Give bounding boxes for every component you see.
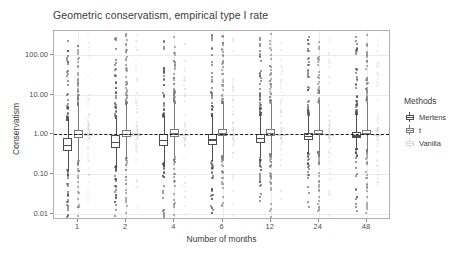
outlier-point bbox=[184, 67, 186, 69]
outlier-point bbox=[318, 184, 320, 186]
outlier-point bbox=[318, 155, 320, 157]
outlier-point bbox=[270, 203, 272, 205]
outlier-point bbox=[67, 63, 69, 65]
outlier-point bbox=[163, 41, 165, 43]
outlier-point bbox=[114, 215, 116, 217]
outlier-point bbox=[356, 154, 358, 156]
outlier-point bbox=[125, 64, 127, 66]
plot-panel bbox=[53, 30, 390, 219]
outlier-point bbox=[280, 159, 282, 161]
outlier-point bbox=[88, 174, 90, 176]
outlier-point bbox=[328, 59, 330, 61]
outlier-point bbox=[125, 100, 127, 102]
outlier-point bbox=[173, 160, 175, 162]
outlier-point bbox=[66, 57, 68, 59]
outlier-point bbox=[77, 58, 79, 60]
x-tick-label: 6 bbox=[219, 222, 223, 231]
outlier-point bbox=[211, 35, 213, 37]
outlier-point bbox=[87, 103, 89, 105]
outlier-point bbox=[136, 102, 138, 104]
outlier-point bbox=[115, 59, 117, 61]
outlier-point bbox=[259, 53, 261, 55]
outlier-point bbox=[377, 39, 379, 41]
outlier-point bbox=[232, 156, 234, 158]
outlier-point bbox=[125, 67, 127, 69]
outlier-point bbox=[136, 121, 138, 123]
outlier-point bbox=[136, 80, 138, 82]
outlier-point bbox=[77, 85, 79, 87]
outlier-point bbox=[135, 159, 137, 161]
outlier-point bbox=[67, 106, 69, 108]
whisker-upper bbox=[356, 114, 357, 132]
outlier-point bbox=[232, 78, 234, 80]
outlier-point bbox=[77, 177, 79, 179]
whisker-lower bbox=[137, 135, 138, 138]
outlier-point bbox=[211, 54, 213, 56]
outlier-point bbox=[184, 95, 186, 97]
outlier-point bbox=[308, 43, 310, 45]
whisker-lower bbox=[319, 135, 320, 152]
outlier-point bbox=[211, 39, 213, 41]
x-tick-mark bbox=[125, 219, 126, 222]
outlier-point bbox=[222, 85, 224, 87]
outlier-point bbox=[366, 34, 368, 36]
outlier-point bbox=[163, 68, 165, 70]
outlier-point bbox=[135, 68, 137, 70]
outlier-point bbox=[232, 87, 234, 89]
outlier-point bbox=[115, 197, 117, 199]
x-axis-label: Number of months bbox=[53, 234, 390, 244]
outlier-point bbox=[377, 126, 379, 128]
outlier-point bbox=[125, 176, 127, 178]
legend: Methods MertenstVanilla bbox=[404, 96, 446, 150]
whisker-lower bbox=[174, 137, 175, 157]
outlier-point bbox=[232, 106, 234, 108]
legend-item-t[interactable]: t bbox=[404, 124, 446, 136]
outlier-point bbox=[173, 92, 175, 94]
outlier-point bbox=[259, 88, 261, 90]
gridline-horizontal bbox=[54, 214, 389, 215]
outlier-point bbox=[280, 149, 282, 151]
legend-title: Methods bbox=[404, 96, 446, 106]
outlier-point bbox=[377, 78, 379, 80]
outlier-point bbox=[270, 161, 272, 163]
legend-item-mertens[interactable]: Mertens bbox=[404, 111, 446, 123]
outlier-point bbox=[280, 84, 282, 86]
outlier-point bbox=[270, 208, 272, 210]
outlier-point bbox=[163, 172, 165, 174]
x-tick-mark bbox=[270, 219, 271, 222]
outlier-point bbox=[210, 162, 212, 164]
outlier-point bbox=[115, 204, 117, 206]
outlier-point bbox=[87, 34, 89, 36]
outlier-point bbox=[222, 79, 224, 81]
legend-item-vanilla[interactable]: Vanilla bbox=[404, 137, 446, 149]
outlier-point bbox=[115, 87, 117, 89]
outlier-point bbox=[270, 187, 272, 189]
outlier-point bbox=[366, 153, 368, 155]
outlier-point bbox=[174, 180, 176, 182]
whisker-lower bbox=[89, 135, 90, 138]
outlier-point bbox=[115, 111, 117, 113]
outlier-point bbox=[329, 178, 331, 180]
outlier-point bbox=[115, 194, 117, 196]
outlier-point bbox=[222, 171, 224, 173]
whisker-upper bbox=[223, 103, 224, 129]
outlier-point bbox=[125, 87, 127, 89]
outlier-point bbox=[307, 174, 309, 176]
outlier-point bbox=[355, 157, 357, 159]
outlier-point bbox=[260, 112, 262, 114]
outlier-point bbox=[328, 156, 330, 158]
outlier-point bbox=[365, 68, 367, 70]
whisker-lower bbox=[212, 145, 213, 162]
outlier-point bbox=[184, 196, 186, 198]
outlier-point bbox=[329, 125, 331, 127]
outlier-point bbox=[232, 39, 234, 41]
outlier-point bbox=[356, 43, 358, 45]
outlier-point bbox=[88, 167, 90, 169]
outlier-point bbox=[211, 72, 213, 74]
outlier-point bbox=[270, 216, 272, 218]
outlier-point bbox=[222, 60, 224, 62]
outlier-point bbox=[307, 89, 309, 91]
outlier-point bbox=[211, 61, 213, 63]
outlier-point bbox=[174, 46, 176, 48]
outlier-point bbox=[318, 77, 320, 79]
